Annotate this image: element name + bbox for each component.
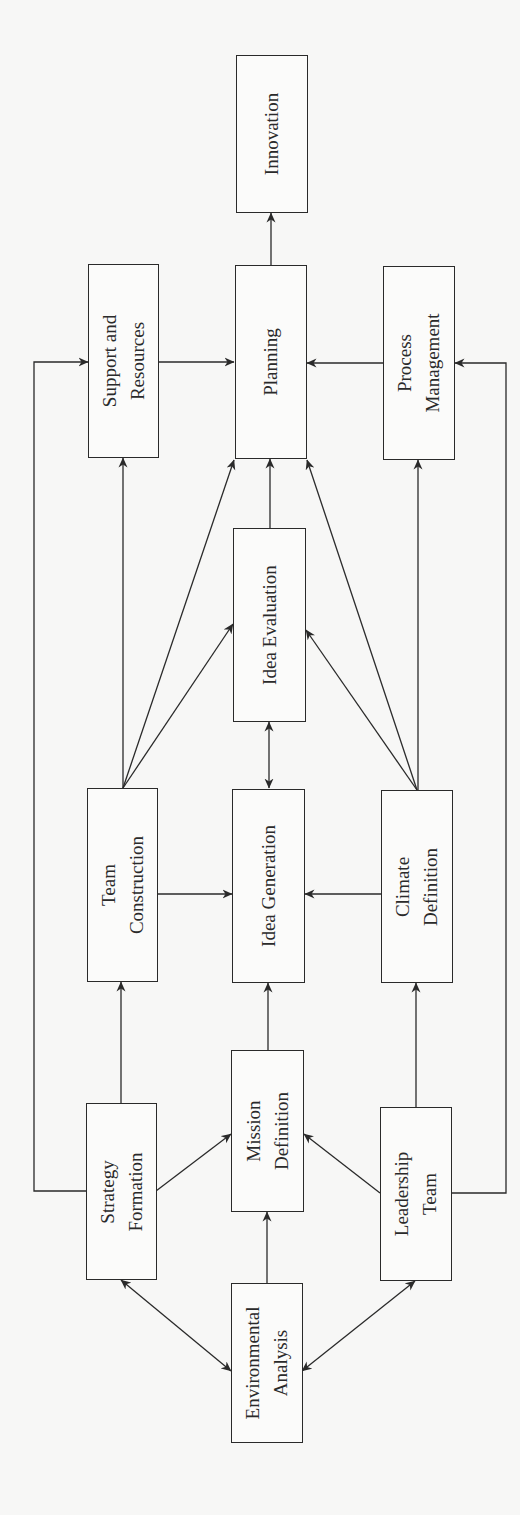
edge-climate-ideaeval [306,630,417,790]
node-idea-evaluation-label: Idea Evaluation [256,565,284,685]
node-strategy-formation: Strategy Formation [86,1103,157,1280]
node-idea-generation: Idea Generation [232,789,305,983]
label-line: Innovation [258,93,286,175]
node-planning-label: Planning [257,328,285,396]
label-line: Resources [124,315,152,407]
edge-strategy-support-outer [34,362,88,1191]
node-innovation: Innovation [236,55,308,213]
label-line: Process [391,313,419,412]
label-line: Definition [268,1092,296,1170]
node-support-label: Support and Resources [96,315,152,407]
label-line: Idea Generation [255,825,283,947]
label-line: Support and [96,315,124,407]
label-line: Team [416,1152,444,1236]
label-line: Climate [389,847,417,925]
node-leadership-label: Leadership Team [388,1152,444,1236]
edge-leadership-mission [304,1134,380,1193]
label-line: Management [419,313,447,412]
node-mission-definition: Mission Definition [231,1050,304,1212]
edge-environment-strategy [121,1280,231,1371]
node-environmental-analysis: Environmental Analysis [231,1283,303,1443]
edge-team-planning [123,460,234,788]
node-process-management: Process Management [383,266,455,460]
node-innovation-label: Innovation [258,93,286,175]
node-leadership-team: Leadership Team [380,1107,452,1281]
label-line: Idea Evaluation [256,565,284,685]
node-team-construction: Team Construction [87,788,158,982]
node-climate-label: Climate Definition [389,847,445,925]
label-line: Definition [417,847,445,925]
edge-leadership-process-outer [452,363,506,1193]
label-line: Planning [257,328,285,396]
edge-climate-planning [307,460,417,790]
node-support-resources: Support and Resources [88,264,159,458]
node-climate-definition: Climate Definition [381,790,453,983]
label-line: Analysis [267,1307,295,1420]
label-line: Formation [122,1152,150,1231]
edge-team-ideaeval [123,624,233,788]
label-line: Leadership [388,1152,416,1236]
label-line: Environmental [239,1307,267,1420]
label-line: Mission [240,1092,268,1170]
label-line: Construction [123,836,151,934]
node-team-label: Team Construction [95,836,151,934]
node-environment-label: Environmental Analysis [239,1307,295,1420]
edge-strategy-mission [156,1134,231,1191]
label-line: Team [95,836,123,934]
node-planning: Planning [235,265,307,459]
label-line: Strategy [94,1152,122,1231]
node-mission-label: Mission Definition [240,1092,296,1170]
node-idea-evaluation: Idea Evaluation [233,528,306,722]
node-process-label: Process Management [391,313,447,412]
node-idea-generation-label: Idea Generation [255,825,283,947]
node-strategy-label: Strategy Formation [94,1152,150,1231]
edge-environment-leadership [302,1281,415,1371]
